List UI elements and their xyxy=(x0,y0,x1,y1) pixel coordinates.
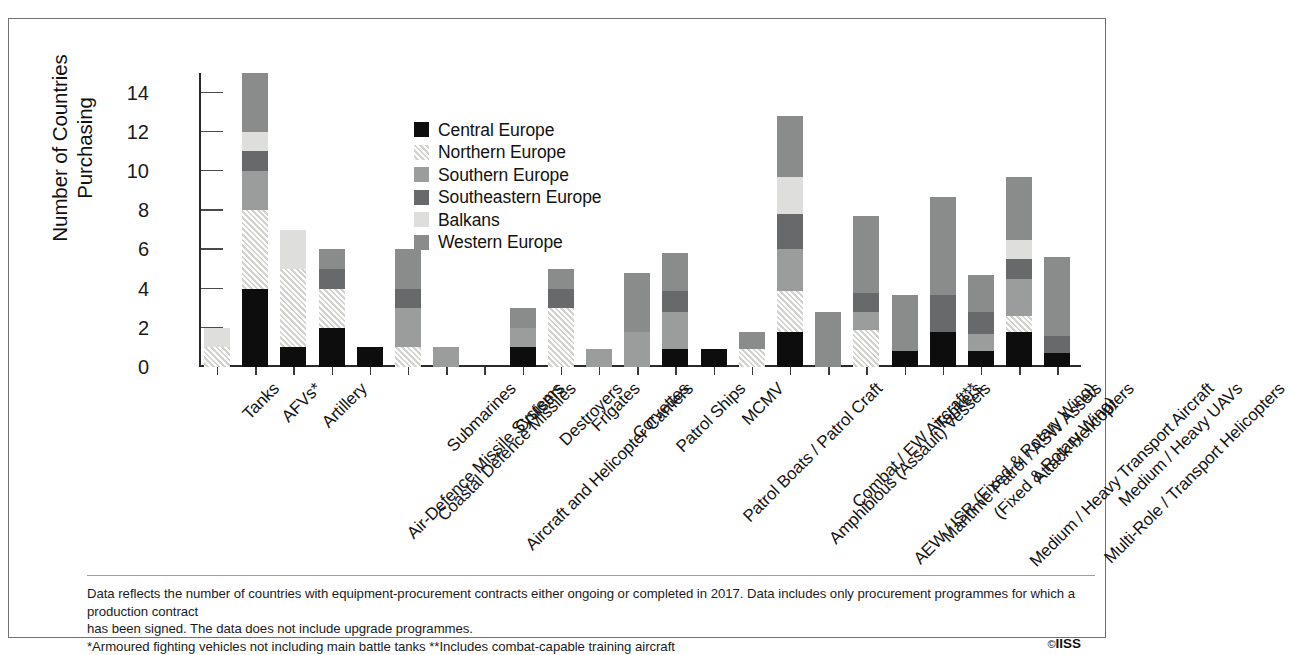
bar-segment xyxy=(624,273,650,332)
x-tick-mark xyxy=(332,367,333,375)
bar-segment xyxy=(662,291,688,313)
bar-segment xyxy=(357,347,383,367)
legend-item: Southeastern Europe xyxy=(414,187,664,208)
bar-column[interactable] xyxy=(1006,177,1032,367)
x-tick-mark xyxy=(523,367,524,375)
bar-segment xyxy=(280,347,306,367)
bar-column[interactable] xyxy=(357,347,383,367)
bar-segment xyxy=(1044,257,1070,335)
credit-text: IISS xyxy=(1055,636,1081,651)
bar-segment xyxy=(280,230,306,269)
legend-swatch-icon xyxy=(414,190,429,205)
bar-column[interactable] xyxy=(662,253,688,367)
y-tick-mark xyxy=(201,131,223,132)
bar-segment xyxy=(662,253,688,290)
bar-segment xyxy=(548,289,574,309)
bar-segment xyxy=(510,328,536,348)
bar-segment xyxy=(1006,177,1032,240)
bar-segment xyxy=(968,275,994,312)
bar-column[interactable] xyxy=(701,349,727,367)
x-axis-category-label: MCMV xyxy=(738,379,788,429)
bar-column[interactable] xyxy=(395,249,421,367)
bar-column[interactable] xyxy=(892,295,918,368)
bar-segment xyxy=(1006,332,1032,367)
bar-segment xyxy=(433,347,459,367)
legend-label: Central Europe xyxy=(438,121,554,139)
bar-segment xyxy=(1006,240,1032,260)
bar-segment xyxy=(395,249,421,288)
legend-swatch-icon xyxy=(414,167,429,182)
bar-segment xyxy=(853,330,879,367)
y-tick-label: 14 xyxy=(109,83,149,103)
x-tick-mark xyxy=(217,367,218,375)
bar-segment xyxy=(739,349,765,367)
footnotes: Data reflects the number of countries wi… xyxy=(87,585,1097,655)
bar-column[interactable] xyxy=(815,312,841,367)
bar-column[interactable] xyxy=(739,332,765,367)
legend-swatch-icon xyxy=(414,145,429,160)
bar-segment xyxy=(662,349,688,367)
bar-segment xyxy=(204,328,230,348)
x-tick-mark xyxy=(943,367,944,375)
x-tick-mark xyxy=(1057,367,1058,375)
y-axis-ticks: 02468101214 xyxy=(29,73,149,367)
bar-segment xyxy=(280,269,306,347)
bar-segment xyxy=(892,295,918,352)
x-tick-mark xyxy=(408,367,409,375)
bar-segment xyxy=(777,291,803,332)
bar-column[interactable] xyxy=(777,116,803,367)
legend-swatch-icon xyxy=(414,212,429,227)
bar-column[interactable] xyxy=(242,73,268,367)
x-tick-mark xyxy=(293,367,294,375)
bar-segment xyxy=(777,177,803,214)
x-tick-mark xyxy=(905,367,906,375)
bar-column[interactable] xyxy=(548,269,574,367)
x-tick-mark xyxy=(752,367,753,375)
bar-segment xyxy=(892,351,918,367)
footnote-line-3: *Armoured fighting vehicles not includin… xyxy=(87,638,1097,655)
x-tick-mark xyxy=(790,367,791,375)
bar-column[interactable] xyxy=(1044,257,1070,367)
footnote-line-2: has been signed. The data does not inclu… xyxy=(87,620,1097,638)
figure-frame: Number of Countries Purchasing 024681012… xyxy=(8,18,1106,638)
bar-column[interactable] xyxy=(433,347,459,367)
bar-segment xyxy=(815,312,841,367)
bar-segment xyxy=(204,347,230,367)
x-tick-mark xyxy=(255,367,256,375)
bar-column[interactable] xyxy=(624,273,650,367)
bar-segment xyxy=(242,171,268,210)
bar-segment xyxy=(319,328,345,367)
legend-label: Southern Europe xyxy=(438,166,569,184)
bar-segment xyxy=(548,308,574,367)
bar-segment xyxy=(319,249,345,269)
legend-item: Central Europe xyxy=(414,119,664,140)
bar-segment xyxy=(777,332,803,367)
bar-column[interactable] xyxy=(968,275,994,367)
bar-column[interactable] xyxy=(510,308,536,367)
bar-segment xyxy=(968,351,994,367)
bar-column[interactable] xyxy=(280,230,306,367)
bar-segment xyxy=(1006,316,1032,332)
bar-segment xyxy=(395,308,421,347)
legend-label: Balkans xyxy=(438,211,500,229)
bar-column[interactable] xyxy=(930,197,956,368)
bar-segment xyxy=(853,216,879,292)
iiss-credit: ©IISS xyxy=(1047,636,1081,651)
legend-item: Southern Europe xyxy=(414,164,664,185)
bar-segment xyxy=(853,293,879,313)
bar-segment xyxy=(1044,336,1070,354)
bar-segment xyxy=(242,132,268,152)
bar-segment xyxy=(1006,279,1032,316)
bar-column[interactable] xyxy=(204,328,230,367)
bar-column[interactable] xyxy=(319,249,345,367)
legend-label: Southeastern Europe xyxy=(438,188,602,206)
x-tick-mark xyxy=(561,367,562,375)
bar-column[interactable] xyxy=(586,349,612,367)
bar-segment xyxy=(853,312,879,330)
bar-segment xyxy=(930,295,956,332)
bar-column[interactable] xyxy=(853,216,879,367)
x-tick-mark xyxy=(714,367,715,375)
x-tick-mark xyxy=(1019,367,1020,375)
bar-segment xyxy=(662,312,688,349)
legend-item: Balkans xyxy=(414,209,664,230)
